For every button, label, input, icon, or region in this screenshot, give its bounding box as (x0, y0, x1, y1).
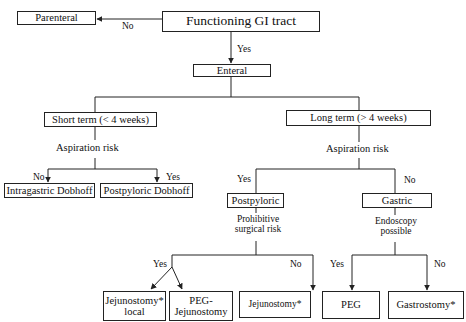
edge-label-long-yes: Yes (237, 174, 251, 184)
decision-prohibitive-surgical-risk: Prohibitive surgical risk (228, 214, 288, 235)
node-jejunostomy-local: Jejunostomy* local (103, 291, 166, 321)
decision-prohibitive-line2: surgical risk (228, 224, 288, 234)
node-jejunostomy: Jejunostomy* (239, 291, 311, 318)
node-functioning-gi-tract: Functioning GI tract (162, 11, 320, 32)
edge-label-long-no: No (404, 175, 416, 185)
node-peg-jejunostomy-line1: PEG- (189, 295, 212, 306)
node-intragastric-dobhoff: Intragastric Dobhoff (4, 183, 95, 198)
edge-label-short-no: No (33, 172, 45, 182)
decision-prohibitive-line1: Prohibitive (228, 214, 288, 224)
edge-label-gi-no: No (122, 21, 134, 31)
node-short-term: Short term (< 4 weeks) (44, 112, 157, 127)
node-peg-jejunostomy-line2: Jejunostomy (174, 306, 227, 317)
connector-lines (0, 0, 466, 322)
edge-label-endo-yes: Yes (330, 259, 344, 269)
edge-label-surgical-no: No (290, 259, 302, 269)
node-jejunostomy-local-line1: Jejunostomy* (105, 295, 163, 306)
node-peg-jejunostomy: PEG- Jejunostomy (169, 291, 233, 321)
edge-label-short-yes: Yes (166, 172, 180, 182)
decision-endoscopy-line2: possible (368, 226, 424, 236)
edge-label-surgical-yes: Yes (153, 259, 167, 269)
node-gastric: Gastric (362, 193, 432, 208)
node-peg: PEG (322, 291, 380, 319)
decision-endoscopy-possible: Endoscopy possible (368, 216, 424, 237)
edge-label-gi-yes: Yes (237, 44, 251, 54)
edge-label-endo-no: No (434, 259, 446, 269)
decision-endoscopy-line1: Endoscopy (368, 216, 424, 226)
node-postpyloric-dobhoff: Postpyloric Dobhoff (100, 183, 193, 198)
decision-aspiration-risk-short: Aspiration risk (56, 142, 119, 154)
node-long-term: Long term (> 4 weeks) (286, 110, 431, 126)
decision-aspiration-risk-long: Aspiration risk (326, 143, 389, 155)
node-postpyloric: Postpyloric (227, 193, 284, 208)
node-jejunostomy-local-line2: local (124, 306, 144, 317)
node-enteral: Enteral (193, 64, 271, 77)
node-gastrostomy: Gastrostomy* (388, 291, 464, 319)
node-parenteral: Parenteral (17, 11, 96, 25)
